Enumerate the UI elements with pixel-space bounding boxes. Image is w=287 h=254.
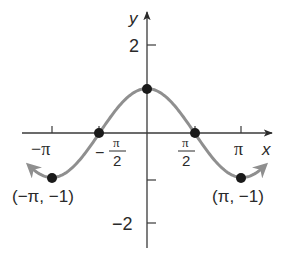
point-neg-pi-min [47,173,57,183]
x-tick-label-neg-half-pi-sign: − [95,144,104,161]
x-tick-label-neg-pi: −π [31,139,50,159]
x-tick-label-pi: π [234,139,243,159]
cosine-graph: y x 2 −2 −π π − π 2 π 2 (−π, −1) (π, −1) [0,0,287,254]
x-axis-label: x [261,140,271,159]
y-tick-label-2: 2 [129,36,139,56]
x-tick-label-half-pi-num: π [182,135,189,150]
x-tick-label-neg-half-pi-den: 2 [113,152,121,169]
y-axis-label: y [128,9,139,28]
point-label-left: (−π, −1) [12,187,74,206]
y-tick-label-neg2: −2 [112,214,133,234]
x-tick-label-half-pi-den: 2 [182,152,190,169]
point-label-right: (π, −1) [212,187,264,206]
point-neg-half-pi-zero [94,128,104,138]
point-half-pi-zero [190,128,200,138]
point-max [142,84,152,94]
point-pi-min [236,173,246,183]
x-tick-label-neg-half-pi-num: π [113,135,120,150]
